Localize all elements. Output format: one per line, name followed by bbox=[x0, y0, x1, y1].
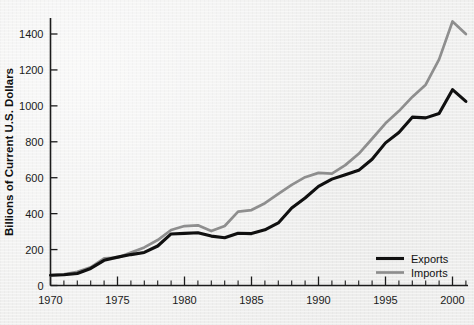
legend-label-imports: Imports bbox=[411, 267, 448, 279]
y-axis-tick-labels: 0200400600800100012001400 bbox=[19, 28, 43, 292]
x-tick-label-1980: 1980 bbox=[172, 294, 196, 306]
x-tick-label-1995: 1995 bbox=[373, 294, 397, 306]
x-tick-label-1985: 1985 bbox=[239, 294, 263, 306]
series-line-exports bbox=[51, 90, 466, 276]
series-line-imports bbox=[51, 21, 466, 275]
chart-legend: Exports Imports bbox=[376, 253, 449, 279]
y-axis-ticks bbox=[51, 34, 58, 286]
x-tick-label-2000: 2000 bbox=[440, 294, 464, 306]
x-axis-tick-labels: 1970197519801985199019952000 bbox=[38, 294, 464, 306]
y-tick-label-200: 200 bbox=[25, 244, 43, 256]
chart-page: 0200400600800100012001400 19701975198019… bbox=[0, 0, 474, 325]
y-tick-label-1000: 1000 bbox=[19, 100, 43, 112]
y-tick-label-1400: 1400 bbox=[19, 28, 43, 40]
y-tick-label-0: 0 bbox=[37, 280, 43, 292]
x-tick-label-1990: 1990 bbox=[306, 294, 330, 306]
x-axis-major-ticks bbox=[51, 277, 453, 286]
y-tick-label-800: 800 bbox=[25, 136, 43, 148]
y-tick-label-400: 400 bbox=[25, 208, 43, 220]
y-tick-label-600: 600 bbox=[25, 172, 43, 184]
axes-group bbox=[51, 18, 469, 286]
line-chart: 0200400600800100012001400 19701975198019… bbox=[0, 0, 474, 325]
legend-label-exports: Exports bbox=[411, 253, 449, 265]
x-tick-label-1975: 1975 bbox=[105, 294, 129, 306]
y-axis-title: Billions of Current U.S. Dollars bbox=[3, 68, 15, 236]
y-tick-label-1200: 1200 bbox=[19, 64, 43, 76]
data-series-group bbox=[51, 21, 466, 275]
x-tick-label-1970: 1970 bbox=[38, 294, 62, 306]
